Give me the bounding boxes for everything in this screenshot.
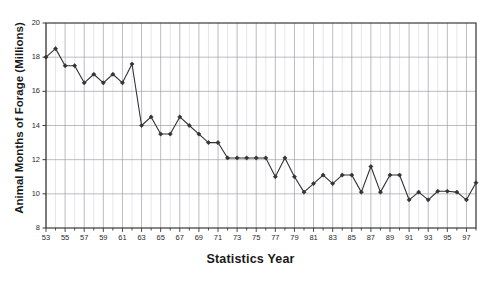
data-series-line (46, 49, 476, 200)
forage-line-chart: Animal Months of Forage (Millions) Stati… (0, 0, 501, 282)
data-point-marker (397, 173, 401, 177)
y-tick-label: 10 (18, 189, 40, 198)
data-point-marker (130, 62, 134, 66)
y-tick-label: 14 (18, 121, 40, 130)
data-point-marker (388, 173, 392, 177)
data-point-marker (73, 64, 77, 68)
y-tick-label: 20 (18, 18, 40, 27)
y-tick-label: 12 (18, 155, 40, 164)
data-point-marker (168, 132, 172, 136)
y-tick-label: 16 (18, 86, 40, 95)
x-tick-label: 97 (455, 233, 477, 242)
data-point-marker (273, 175, 277, 179)
y-tick-label: 18 (18, 52, 40, 61)
data-point-marker (63, 64, 67, 68)
data-point-marker (445, 189, 449, 193)
data-point-marker (159, 132, 163, 136)
y-tick-label: 8 (18, 223, 40, 232)
data-point-marker (474, 181, 478, 185)
data-point-marker (369, 164, 373, 168)
data-point-marker (350, 173, 354, 177)
